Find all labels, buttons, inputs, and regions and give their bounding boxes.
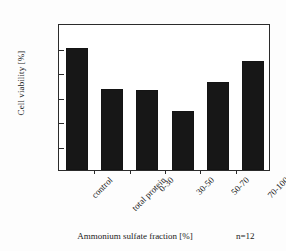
- bar: [66, 48, 88, 171]
- x-axis-tick-mark: [236, 170, 237, 174]
- bar: [242, 61, 264, 170]
- x-axis-tick-label: control: [89, 175, 114, 200]
- x-axis-tick-mark: [165, 170, 166, 174]
- x-axis-tick-mark: [200, 170, 201, 174]
- plot-area: [58, 24, 270, 171]
- y-axis-tick-mark: [59, 99, 64, 100]
- y-axis-tick-mark: [59, 74, 64, 75]
- y-axis-tick-mark: [59, 123, 64, 124]
- sample-size-annotation: n=12: [236, 231, 255, 241]
- bar: [101, 89, 123, 170]
- x-axis-title: Ammonium sulfate fraction [%]: [50, 231, 220, 241]
- x-axis-tick-label: 50-70: [229, 175, 251, 197]
- x-axis-tick-label: 70-100: [266, 175, 286, 200]
- x-axis-tick-label: 30-50: [194, 175, 216, 197]
- bar: [207, 82, 229, 170]
- y-axis-title: Cell viability [%]: [16, 28, 26, 138]
- x-axis-tick-mark: [94, 170, 95, 174]
- bar: [136, 90, 158, 170]
- y-axis-tick-mark: [59, 148, 64, 149]
- x-axis-tick-mark: [130, 170, 131, 174]
- bar-chart-figure: Cell viability [%] 020406080100120 contr…: [0, 0, 286, 251]
- bar: [172, 111, 194, 170]
- y-axis-tick-mark: [59, 50, 64, 51]
